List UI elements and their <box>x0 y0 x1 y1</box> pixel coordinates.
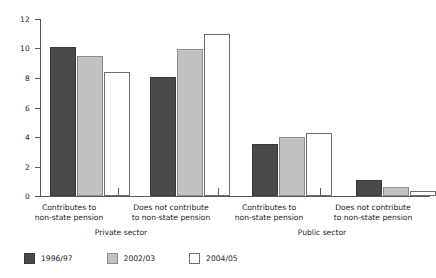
x-axis-line <box>40 196 430 197</box>
bar-0-1 <box>77 56 103 196</box>
y-tick-label-2: 2 <box>8 163 30 172</box>
bar-2-0 <box>252 144 278 196</box>
category-label-0: Contributes to non-state pension <box>23 203 115 223</box>
category-separator-1 <box>118 188 119 197</box>
y-tick-label-0: 0 <box>8 192 30 201</box>
category-label-3-line2: to non-state pension <box>324 213 422 223</box>
category-label-1-line1: Does not contribute <box>122 203 220 213</box>
group-label-public-sector: Public sector <box>222 228 422 237</box>
y-tick-label-6: 6 <box>8 104 30 113</box>
category-separator-2 <box>218 188 219 197</box>
y-tick-label-10: 10 <box>8 44 30 53</box>
category-label-3-line1: Does not contribute <box>324 203 422 213</box>
bar-1-2 <box>204 34 230 196</box>
bar-0-2 <box>104 72 130 196</box>
group-label-private-sector: Private sector <box>23 228 219 237</box>
y-tick-label-8: 8 <box>8 74 30 83</box>
bar-3-1 <box>383 187 409 196</box>
legend-item-0[interactable]: 1996/97 <box>24 253 73 264</box>
category-label-2-line2: non-state pension <box>222 213 316 223</box>
bar-2-1 <box>279 137 305 196</box>
legend-swatch-icon-1996-97 <box>24 253 35 264</box>
y-tick-label-12: 12 <box>8 15 30 24</box>
category-label-0-line1: Contributes to <box>23 203 115 213</box>
category-label-2: Contributes to non-state pension <box>222 203 316 223</box>
bar-2-2 <box>306 133 332 196</box>
category-label-2-line1: Contributes to <box>222 203 316 213</box>
legend-swatch-icon-2002-03 <box>107 253 118 264</box>
category-label-1: Does not contribute to non-state pension <box>122 203 220 223</box>
category-label-0-line2: non-state pension <box>23 213 115 223</box>
legend-label-0: 1996/97 <box>41 254 73 263</box>
bar-3-2 <box>410 191 436 196</box>
legend: 1996/97 2002/03 2004/05 <box>24 253 272 264</box>
legend-swatch-icon-2004-05 <box>189 253 200 264</box>
y-tick-label-4: 4 <box>8 133 30 142</box>
y-tick-0 <box>35 196 40 197</box>
bar-0-0 <box>50 47 76 196</box>
bar-1-1 <box>177 49 203 197</box>
legend-label-2: 2004/05 <box>206 254 238 263</box>
legend-label-1: 2002/03 <box>124 254 156 263</box>
bar-1-0 <box>150 77 176 196</box>
category-label-1-line2: to non-state pension <box>122 213 220 223</box>
category-separator-3 <box>320 188 321 197</box>
legend-item-2[interactable]: 2004/05 <box>189 253 238 264</box>
bar-3-0 <box>356 180 382 196</box>
category-label-3: Does not contribute to non-state pension <box>324 203 422 223</box>
plot-area <box>40 19 430 196</box>
legend-item-1[interactable]: 2002/03 <box>107 253 156 264</box>
